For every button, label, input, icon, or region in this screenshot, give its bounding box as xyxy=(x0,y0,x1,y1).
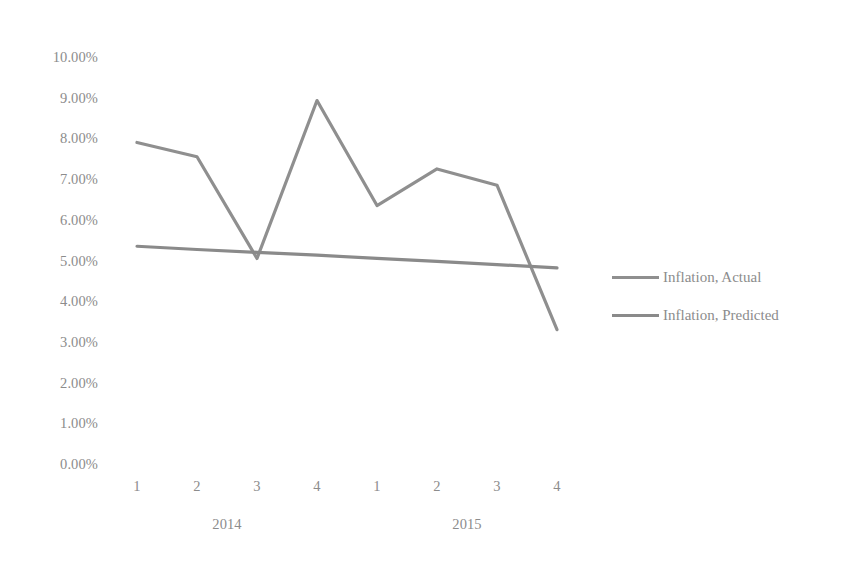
y-axis-tick-label: 4.00% xyxy=(26,294,98,309)
y-axis-tick-label: 2.00% xyxy=(26,376,98,391)
x-axis-tick-label: 3 xyxy=(482,479,512,494)
y-axis-tick-label: 6.00% xyxy=(26,213,98,228)
y-axis-tick-label: 7.00% xyxy=(26,172,98,187)
legend-swatch-icon xyxy=(612,314,659,317)
x-axis-tick-label: 2 xyxy=(182,479,212,494)
y-axis-tick-label: 3.00% xyxy=(26,335,98,350)
legend-swatch-icon xyxy=(612,276,659,279)
y-axis-tick-label: 9.00% xyxy=(26,91,98,106)
x-axis-tick-label: 4 xyxy=(542,479,572,494)
legend-item-inflation-predicted[interactable]: Inflation, Predicted xyxy=(612,296,847,334)
x-axis-group-label: 2014 xyxy=(167,517,287,532)
x-axis-tick-label: 1 xyxy=(362,479,392,494)
y-axis-tick-label: 8.00% xyxy=(26,131,98,146)
legend-label: Inflation, Actual xyxy=(663,270,761,285)
x-axis-tick-label: 3 xyxy=(242,479,272,494)
x-axis-tick-label: 1 xyxy=(122,479,152,494)
x-axis-tick-label: 4 xyxy=(302,479,332,494)
series-line-inflation-actual xyxy=(137,101,557,330)
x-axis-tick-label: 2 xyxy=(422,479,452,494)
series-line-inflation-predicted xyxy=(137,246,557,268)
legend-label: Inflation, Predicted xyxy=(663,308,779,323)
legend-item-inflation-actual[interactable]: Inflation, Actual xyxy=(612,258,847,296)
inflation-line-chart: 10.00%9.00%8.00%7.00%6.00%5.00%4.00%3.00… xyxy=(0,0,857,575)
chart-legend: Inflation, Actual Inflation, Predicted xyxy=(612,258,847,334)
x-axis-group-label: 2015 xyxy=(407,517,527,532)
y-axis-tick-label: 10.00% xyxy=(26,50,98,65)
y-axis-tick-label: 5.00% xyxy=(26,254,98,269)
y-axis-tick-label: 0.00% xyxy=(26,457,98,472)
y-axis-tick-label: 1.00% xyxy=(26,416,98,431)
